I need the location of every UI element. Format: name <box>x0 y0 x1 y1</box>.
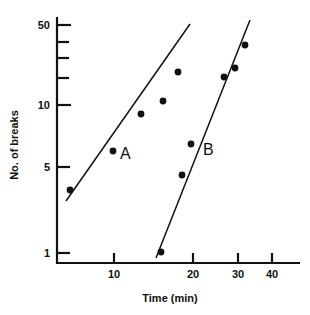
x-tick-label-20: 20 <box>187 268 199 280</box>
series-b-point-4 <box>232 65 239 72</box>
y-tick-label-5: 5 <box>44 161 50 173</box>
series-a-point-1 <box>110 148 117 155</box>
y-tick-label-10: 10 <box>38 99 50 111</box>
series-b-point-3 <box>221 74 228 81</box>
scatter-plot-canvas: 50 10 5 1 10 20 30 40 No. of breaks Time… <box>0 0 310 315</box>
series-b-point-5 <box>242 42 249 49</box>
series-b-annotation-label: B <box>203 141 214 158</box>
y-tick-label-50: 50 <box>38 19 50 31</box>
series-b-point-0 <box>158 249 165 256</box>
x-axis-title: Time (min) <box>142 292 198 304</box>
x-tick-label-30: 30 <box>232 268 244 280</box>
x-tick-label-10: 10 <box>108 268 120 280</box>
chart-figure: 50 10 5 1 10 20 30 40 No. of breaks Time… <box>0 0 310 315</box>
series-a-annotation-label: A <box>120 145 131 162</box>
series-b-point-2 <box>188 141 195 148</box>
y-axis-title: No. of breaks <box>8 110 20 180</box>
series-b-point-1 <box>179 172 186 179</box>
series-a-point-4 <box>175 69 182 76</box>
series-a-point-2 <box>138 111 145 118</box>
series-a-point-3 <box>160 98 167 105</box>
y-tick-label-1: 1 <box>44 247 50 259</box>
plot-background <box>0 0 310 315</box>
x-tick-label-40: 40 <box>266 268 278 280</box>
series-a-point-0 <box>67 187 74 194</box>
